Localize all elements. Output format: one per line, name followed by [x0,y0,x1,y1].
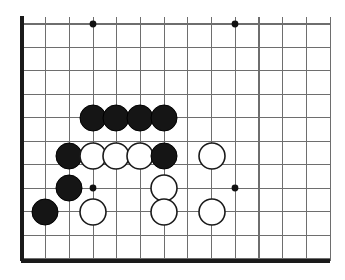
go-board-figure [0,0,345,280]
figure-background [0,0,345,280]
black-stone[interactable] [103,105,129,131]
black-stone[interactable] [151,105,177,131]
black-stone[interactable] [32,199,58,225]
white-stone[interactable] [199,199,225,225]
black-stone[interactable] [56,175,82,201]
go-board-canvas[interactable] [0,0,345,280]
star-point [232,185,239,192]
white-stone[interactable] [151,175,177,201]
black-stone[interactable] [56,143,82,169]
white-stone[interactable] [199,143,225,169]
white-stone[interactable] [103,143,129,169]
white-stone[interactable] [80,143,106,169]
white-stone[interactable] [127,143,153,169]
black-stone[interactable] [80,105,106,131]
black-stone[interactable] [151,143,177,169]
star-point [90,185,97,192]
star-point [232,21,239,28]
black-stone[interactable] [127,105,153,131]
white-stone[interactable] [80,199,106,225]
white-stone[interactable] [151,199,177,225]
star-point [90,21,97,28]
